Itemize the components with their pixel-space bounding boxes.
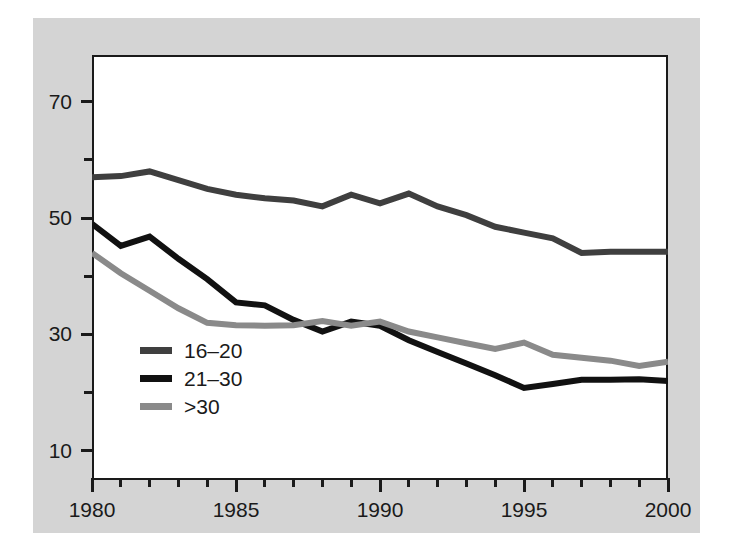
x-minor-tick <box>119 478 122 487</box>
x-tick-label: 1995 <box>464 499 584 520</box>
chart-legend: 16–2021–30>30 <box>140 336 320 420</box>
x-minor-tick <box>177 478 180 487</box>
x-minor-tick <box>580 478 583 487</box>
figure-panel: 10305070 19801985199019952000 16–2021–30… <box>33 18 700 533</box>
series-line-1 <box>92 171 668 253</box>
y-minor-tick <box>84 275 94 278</box>
x-minor-tick <box>292 478 295 487</box>
legend-item-label: >30 <box>184 396 220 417</box>
x-minor-tick <box>350 478 353 487</box>
x-major-tick <box>667 478 670 492</box>
legend-item-label: 21–30 <box>184 368 242 389</box>
x-minor-tick <box>148 478 151 487</box>
y-major-tick <box>81 333 94 336</box>
x-minor-tick <box>321 478 324 487</box>
x-tick-label: 1990 <box>320 499 440 520</box>
x-tick-label: 1985 <box>176 499 296 520</box>
y-tick-label: 70 <box>12 91 72 112</box>
x-minor-tick <box>407 478 410 487</box>
legend-swatch-icon <box>140 403 172 410</box>
x-tick-label: 2000 <box>608 499 728 520</box>
y-minor-tick <box>84 158 94 161</box>
x-minor-tick <box>436 478 439 487</box>
plot-wrapper: 10305070 19801985199019952000 16–2021–30… <box>92 55 668 480</box>
x-major-tick <box>91 478 94 492</box>
x-major-tick <box>235 478 238 492</box>
y-tick-label: 50 <box>12 207 72 228</box>
x-tick-label: 1980 <box>32 499 152 520</box>
legend-swatch-icon <box>140 375 172 382</box>
legend-item: >30 <box>140 392 320 420</box>
x-major-tick <box>379 478 382 492</box>
legend-item-label: 16–20 <box>184 340 242 361</box>
x-major-tick <box>523 478 526 492</box>
x-minor-tick <box>609 478 612 487</box>
y-major-tick <box>81 217 94 220</box>
x-minor-tick <box>465 478 468 487</box>
y-tick-label: 10 <box>12 440 72 461</box>
y-major-tick <box>81 449 94 452</box>
legend-swatch-icon <box>140 347 172 354</box>
y-tick-label: 30 <box>12 323 72 344</box>
x-minor-tick <box>494 478 497 487</box>
y-minor-tick <box>84 391 94 394</box>
y-major-tick <box>81 100 94 103</box>
legend-item: 16–20 <box>140 336 320 364</box>
x-minor-tick <box>206 478 209 487</box>
x-minor-tick <box>551 478 554 487</box>
legend-item: 21–30 <box>140 364 320 392</box>
x-minor-tick <box>263 478 266 487</box>
x-minor-tick <box>638 478 641 487</box>
